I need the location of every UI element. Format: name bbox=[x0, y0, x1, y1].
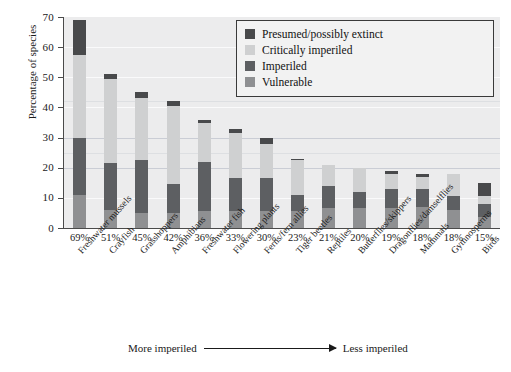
bar-segment bbox=[73, 138, 86, 195]
bar-column bbox=[167, 101, 180, 228]
bar-segment bbox=[416, 177, 429, 189]
y-tick-mark bbox=[58, 17, 63, 18]
bar-segment bbox=[291, 160, 304, 195]
y-tick-label: 40 bbox=[43, 102, 54, 113]
bar-segment bbox=[322, 165, 335, 186]
legend-color-swatch bbox=[245, 61, 255, 71]
bar-segment bbox=[73, 20, 86, 55]
y-tick-label: 60 bbox=[43, 42, 54, 53]
bar-segment bbox=[104, 163, 117, 210]
bar-segment bbox=[353, 168, 366, 192]
bar-segment bbox=[73, 195, 86, 228]
y-tick-label: 10 bbox=[43, 192, 54, 203]
bar-segment bbox=[73, 55, 86, 138]
bar-segment bbox=[260, 144, 273, 179]
footer-right-label: Less imperiled bbox=[343, 342, 408, 354]
y-tick-label: 30 bbox=[43, 132, 54, 143]
bar-segment bbox=[447, 196, 460, 210]
bar-segment bbox=[198, 123, 211, 162]
bar-segment bbox=[135, 98, 148, 160]
legend-label: Critically imperiled bbox=[262, 44, 352, 56]
bar-segment bbox=[353, 208, 366, 228]
y-tick-mark bbox=[58, 138, 63, 139]
imperilment-gradient-note: More imperiled Less imperiled bbox=[128, 342, 408, 354]
bar-segment bbox=[478, 183, 491, 197]
bar-column bbox=[353, 168, 366, 228]
legend-item: Vulnerable bbox=[245, 74, 485, 90]
legend-label: Presumed/possibly extinct bbox=[262, 28, 383, 40]
legend-color-swatch bbox=[245, 29, 255, 39]
arrow-line bbox=[204, 348, 336, 349]
y-tick-mark bbox=[58, 198, 63, 199]
y-tick-label: 0 bbox=[48, 223, 54, 234]
bar-segment bbox=[135, 160, 148, 213]
legend-color-swatch bbox=[245, 45, 255, 55]
bar-segment bbox=[198, 162, 211, 212]
legend-label: Vulnerable bbox=[262, 76, 312, 88]
chart-legend: Presumed/possibly extinctCritically impe… bbox=[236, 20, 494, 97]
bar-segment bbox=[478, 196, 491, 204]
footer-left-label: More imperiled bbox=[128, 342, 197, 354]
y-tick-mark bbox=[58, 228, 63, 229]
bar-column bbox=[73, 20, 86, 228]
bar-segment bbox=[104, 79, 117, 163]
legend-item: Presumed/possibly extinct bbox=[245, 26, 485, 42]
y-tick-mark bbox=[58, 168, 63, 169]
caption-fragment bbox=[62, 360, 282, 370]
y-tick-mark bbox=[58, 107, 63, 108]
y-tick-mark bbox=[58, 47, 63, 48]
bar-segment bbox=[167, 184, 180, 213]
y-tick-label: 50 bbox=[43, 72, 54, 83]
arrow-head-icon bbox=[329, 344, 337, 352]
y-tick-label: 20 bbox=[43, 162, 54, 173]
y-axis-title: Percentage of species bbox=[26, 0, 38, 152]
bar-segment bbox=[229, 133, 242, 178]
bar-segment bbox=[167, 106, 180, 184]
legend-item: Critically imperiled bbox=[245, 42, 485, 58]
y-tick-label: 70 bbox=[43, 12, 54, 23]
legend-item: Imperiled bbox=[245, 58, 485, 74]
bar-segment bbox=[135, 213, 148, 228]
bar-segment bbox=[385, 174, 398, 189]
bar-segment bbox=[322, 186, 335, 209]
y-tick-mark bbox=[58, 77, 63, 78]
bar-column bbox=[198, 120, 211, 228]
chart-container: 010203040506070 Percentage of species 69… bbox=[0, 0, 511, 372]
legend-label: Imperiled bbox=[262, 60, 307, 72]
bar-column bbox=[135, 92, 148, 228]
bar-segment bbox=[353, 192, 366, 209]
legend-color-swatch bbox=[245, 77, 255, 87]
